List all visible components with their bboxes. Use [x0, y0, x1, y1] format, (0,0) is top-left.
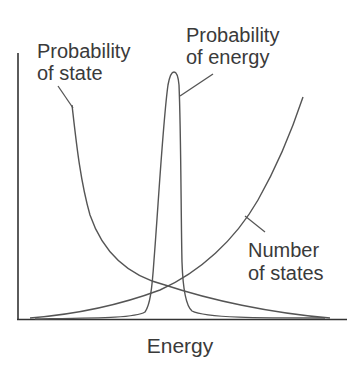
energy-distribution-diagram: Probability of state Probability of ener… — [0, 0, 364, 378]
probability-of-state-label-line2: of state — [37, 62, 103, 84]
x-axis-label: Energy — [147, 334, 214, 357]
probability-of-state-curve — [72, 105, 330, 318]
number-of-states-leader — [245, 216, 265, 232]
probability-of-energy-leader — [180, 74, 213, 96]
probability-of-state-leader — [58, 86, 73, 108]
number-of-states-label-line2: of states — [248, 262, 324, 284]
probability-of-energy-label-line1: Probability — [186, 24, 279, 46]
probability-of-energy-label-line2: of energy — [186, 46, 269, 68]
number-of-states-label-line1: Number — [248, 239, 319, 261]
probability-of-state-label-line1: Probability — [37, 40, 130, 62]
